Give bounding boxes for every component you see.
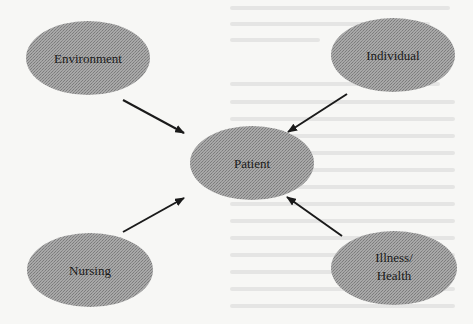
node-environment: Environment <box>26 21 150 95</box>
node-nursing-label: Nursing <box>69 263 111 278</box>
node-illness-health-label-line1: Illness/ <box>375 250 413 265</box>
arrow-illness-health-to-patient <box>287 197 342 236</box>
node-environment-label: Environment <box>54 51 122 66</box>
node-illness-health: Illness/ Health <box>331 231 457 305</box>
concept-diagram: Environment Individual Patient Nursing I… <box>0 0 473 324</box>
node-illness-health-label-line2: Health <box>377 268 412 283</box>
arrow-nursing-to-patient <box>123 198 184 232</box>
node-nursing: Nursing <box>27 233 153 307</box>
node-individual: Individual <box>331 18 455 92</box>
arrow-environment-to-patient <box>123 100 184 133</box>
arrow-individual-to-patient <box>288 94 347 132</box>
node-individual-label: Individual <box>366 48 420 63</box>
diagram-canvas: Environment Individual Patient Nursing I… <box>0 0 473 324</box>
node-patient: Patient <box>190 126 314 200</box>
node-patient-label: Patient <box>234 156 270 171</box>
